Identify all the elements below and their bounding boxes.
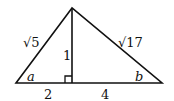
right-side-label: √17 — [118, 35, 143, 50]
angle-b-label: b — [135, 69, 143, 84]
altitude-label: 1 — [63, 48, 71, 63]
left-base-segment-label: 2 — [44, 87, 52, 101]
right-angle-marker — [65, 76, 72, 83]
angle-a-label: a — [27, 69, 35, 84]
right-base-segment-label: 4 — [101, 87, 109, 101]
left-side-label: √5 — [23, 35, 40, 50]
triangle-diagram: √5 √17 1 a b 2 4 — [0, 0, 174, 101]
